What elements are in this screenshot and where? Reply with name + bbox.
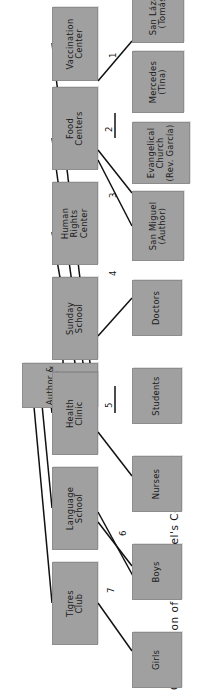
edge-vaccination-center-san-lazaro (98, 41, 132, 81)
node-health-clinic[interactable]: Health Clinic (52, 372, 98, 455)
edge-label-7: 7 (106, 588, 116, 593)
node-doctors[interactable]: Doctors (132, 280, 182, 336)
edge-label-4: 4 (108, 271, 118, 276)
node-mercedes[interactable]: Mercedes (Tina) (132, 51, 184, 113)
node-tigres-club[interactable]: Tigres Club (52, 562, 98, 645)
edge-tigres-club-girls (98, 603, 132, 651)
node-sunday-school[interactable]: Sunday School (52, 277, 98, 360)
edge-label-6: 6 (118, 531, 128, 536)
edge-label-2: 2 (104, 127, 114, 132)
edge-label-5: 5 (104, 403, 114, 408)
node-nurses[interactable]: Nurses (132, 456, 182, 512)
node-vaccination-center[interactable]: Vaccination Center (52, 7, 98, 81)
diagram-rotation-wrapper: Organization of San Miguel's Community A… (0, 0, 197, 698)
edge-language-school-girls-7 (98, 512, 133, 576)
organization-chart: Organization of San Miguel's Community A… (0, 0, 197, 698)
node-san-lazaro[interactable]: San Lázaro (Tomás) (132, 0, 184, 43)
edge-label-1: 1 (108, 53, 118, 58)
node-food-centers[interactable]: Food Centers (52, 87, 98, 170)
node-girls[interactable]: Girls (132, 632, 182, 688)
node-language-school[interactable]: Language School (52, 467, 98, 550)
edge-label-3: 3 (108, 193, 118, 198)
edge-sunday-school-doctors (98, 298, 132, 336)
edge-health-clinic-nurses (98, 432, 132, 476)
node-boys[interactable]: Boys (132, 544, 182, 600)
node-san-miguel[interactable]: San Miguel (Author) (132, 191, 184, 261)
node-students[interactable]: Students (132, 368, 182, 424)
node-evangelical-church[interactable]: Evangelical Church (Rev. García) (132, 122, 190, 184)
node-human-rights-center[interactable]: Human Rights Center (52, 182, 98, 265)
